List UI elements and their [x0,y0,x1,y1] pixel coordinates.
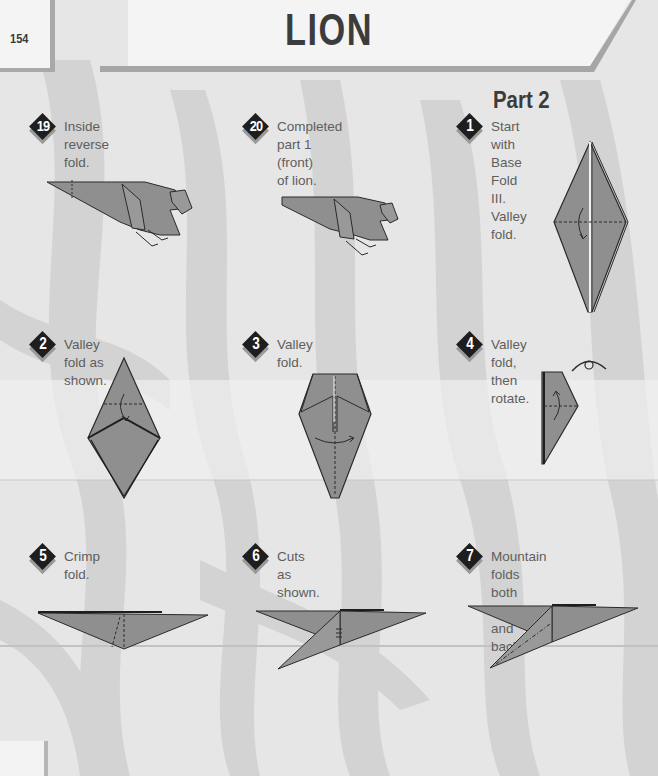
page-corner-tab [0,741,48,776]
step-number-badge: 6 [243,544,269,570]
crimped-shape-cuts-diagram-icon [254,607,429,672]
lion-completed-front-diagram-icon [280,195,410,265]
step-instruction: Crimp fold. [64,548,100,584]
half-kite-diagram-icon [540,370,580,466]
step-instruction: Completed part 1 (front) of lion. [277,118,342,190]
step-number-badge: 7 [457,544,483,570]
step-number-badge: 20 [243,114,269,140]
step-number-badge: 19 [30,114,56,140]
crimped-shape-mountain-fold-diagram-icon [466,602,641,672]
diamond-valley-fold-diagram-icon [86,356,166,501]
flat-triangle-crimp-diagram-icon [36,609,211,651]
step-number-badge: 2 [30,332,56,358]
step-instruction: Valley fold. [277,336,313,372]
step-number-badge: 5 [30,544,56,570]
step-instruction: Start with Base Fold III. Valley fold. [491,118,527,244]
kite-valley-fold-diagram-icon [295,372,375,502]
page-title: LION [72,5,585,55]
step-number-badge: 1 [457,114,483,140]
section-heading: Part 2 [493,86,550,114]
step-number-badge: 3 [243,332,269,358]
lion-front-diagram-icon [40,180,200,260]
step-instruction: Inside reverse fold. [64,118,109,172]
page-number: 154 [10,31,28,46]
diamond-base-diagram-icon [550,140,630,315]
step-instruction: Valley fold, then rotate. [491,336,529,408]
step-instruction: Cuts as shown. [277,548,320,602]
step-number-badge: 4 [457,332,483,358]
